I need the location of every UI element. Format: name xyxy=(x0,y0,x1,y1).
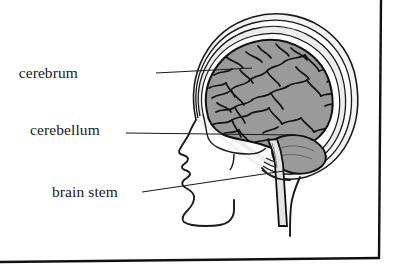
brain-anatomy-figure: cerebrum cerebellum brain stem xyxy=(0,0,397,276)
label-brain-stem: brain stem xyxy=(52,183,118,200)
label-cerebellum: cerebellum xyxy=(30,121,100,138)
diagram-page: cerebrum cerebellum brain stem xyxy=(0,0,397,276)
label-cerebrum: cerebrum xyxy=(19,64,78,81)
